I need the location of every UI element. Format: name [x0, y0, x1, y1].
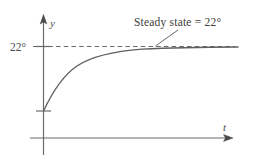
steady-state-figure: y t 22° Steady state = 22°	[0, 0, 258, 163]
steady-state-annotation: Steady state = 22°	[134, 16, 221, 29]
annotation-leader-line	[156, 30, 179, 46]
exponential-curve	[44, 47, 239, 111]
t-axis-label: t	[223, 121, 227, 133]
y-axis-label: y	[49, 17, 55, 29]
y-tick-label-22: 22°	[10, 41, 27, 53]
